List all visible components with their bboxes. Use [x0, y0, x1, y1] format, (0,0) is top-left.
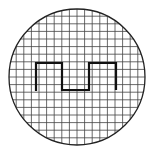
oscilloscope-diagram — [0, 0, 153, 154]
